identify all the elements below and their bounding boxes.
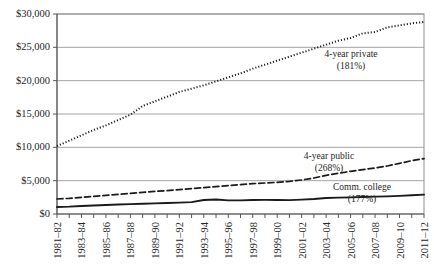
x-axis-label: 1991–92	[174, 222, 185, 259]
4-year-public-value: (268%)	[315, 163, 344, 174]
y-axis-label: $20,000	[16, 75, 50, 86]
x-axis-label: 1993–94	[199, 221, 210, 259]
x-axis-label: 1985–86	[101, 222, 112, 259]
4-year-private-label: 4-year private	[324, 49, 377, 59]
x-axis-label: 1989–90	[150, 222, 161, 259]
x-axis-label: 2007–08	[370, 222, 381, 259]
y-axis-label: $0	[40, 208, 51, 219]
x-axis-label: 1995–96	[223, 222, 234, 259]
x-axis-label: 1987–88	[125, 222, 136, 259]
x-axis-label: 2005–06	[346, 222, 357, 259]
y-axis-label: $30,000	[16, 8, 50, 19]
chart-background	[0, 0, 434, 273]
comm-college-label: Comm. college	[333, 182, 391, 192]
x-axis-label: 2009–10	[395, 222, 406, 259]
x-axis-label: 2001–02	[297, 222, 308, 259]
x-axis-label: 1981–82	[52, 222, 63, 259]
x-axis-label: 2003–04	[321, 221, 332, 259]
x-axis-label: 2011–12	[419, 222, 430, 258]
tuition-line-chart: $0$5,000$10,000$15,000$20,000$25,000$30,…	[0, 0, 434, 273]
y-axis-label: $5,000	[21, 175, 50, 186]
y-axis-label: $25,000	[16, 41, 50, 52]
y-axis-label: $15,000	[16, 108, 50, 119]
x-axis-label: 1983–84	[76, 221, 87, 259]
4-year-private-value: (181%)	[337, 61, 366, 72]
x-axis-label: 1997–98	[248, 222, 259, 259]
4-year-public-label: 4-year public	[304, 151, 354, 161]
x-axis-label: 1999–00	[272, 222, 283, 259]
y-axis-label: $10,000	[16, 141, 50, 152]
comm-college-value: (177%)	[348, 194, 377, 205]
chart-container: $0$5,000$10,000$15,000$20,000$25,000$30,…	[0, 0, 434, 273]
